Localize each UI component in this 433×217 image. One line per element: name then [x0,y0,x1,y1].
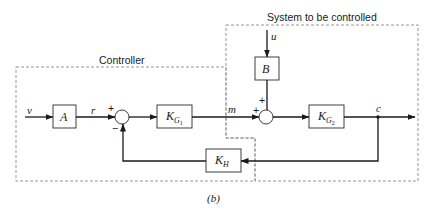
svg-text:B: B [262,62,270,76]
figure-caption: (b) [207,192,220,205]
signal-label-u: u [271,30,277,42]
block-KG1: KG1 [157,105,192,128]
svg-text:−: − [112,122,118,134]
summing-junction-2: + + [253,94,273,124]
svg-text:A: A [59,110,68,124]
system-region-label: System to be controlled [267,11,377,23]
svg-text:+: + [259,94,265,106]
signal-label-v: v [27,104,32,116]
block-A: A [53,105,76,128]
block-diagram: Controller System to be controlled v A r… [0,0,433,217]
block-B: B [255,57,279,80]
summing-junction-1: + − [108,102,129,134]
block-KG2: KG2 [309,105,344,128]
signal-label-r: r [91,104,96,116]
block-KH: KH [206,149,241,172]
wire-KH-to-sum1 [123,124,206,161]
system-region-border [226,25,418,181]
signal-label-m: m [228,103,236,115]
signal-label-c: c [376,102,381,114]
controller-region-label: Controller [99,54,145,66]
svg-text:+: + [108,102,114,114]
